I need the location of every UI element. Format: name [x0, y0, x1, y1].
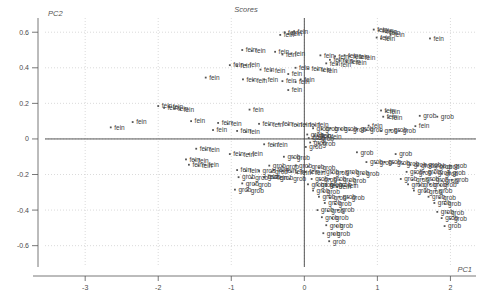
data-point-marker [336, 225, 338, 227]
data-point-marker [168, 106, 170, 108]
data-point-marker [356, 151, 358, 153]
data-point-marker [356, 128, 358, 130]
data-point-label: fein [252, 150, 263, 157]
data-point-marker [258, 123, 260, 125]
data-point-label: fein [419, 122, 430, 129]
data-point-marker [433, 172, 435, 174]
data-point-marker [414, 172, 416, 174]
data-point-marker [157, 105, 159, 107]
data-point-marker [317, 184, 319, 186]
data-point-label: fein [257, 77, 268, 84]
data-point-marker [179, 109, 181, 111]
data-point-marker [312, 190, 314, 192]
data-point-marker [393, 162, 395, 164]
data-point-marker [241, 49, 243, 51]
data-point-marker [409, 164, 411, 166]
data-point-marker [263, 78, 265, 80]
data-point-marker [249, 109, 251, 111]
tick-label-y: 0 [25, 135, 29, 142]
data-point-label: grob [352, 194, 365, 202]
data-point-marker [205, 77, 207, 79]
data-point-marker [338, 196, 340, 198]
data-point-marker [419, 184, 421, 186]
data-point-marker [311, 178, 313, 180]
data-point-marker [245, 170, 247, 172]
data-point-marker [425, 191, 427, 193]
data-point-marker [307, 68, 309, 70]
data-point-marker [325, 224, 327, 226]
data-point-marker [273, 144, 275, 146]
data-point-marker [279, 34, 281, 36]
data-point-marker [290, 53, 292, 55]
data-point-marker [278, 123, 280, 125]
data-point-marker [248, 153, 250, 155]
data-point-marker [241, 183, 243, 185]
data-point-marker [245, 64, 247, 66]
data-point-label: grob [309, 143, 322, 151]
data-point-marker [317, 69, 319, 71]
data-point-marker [337, 209, 339, 211]
data-point-marker [287, 73, 289, 75]
data-point-label: fein [385, 35, 396, 42]
data-point-marker [382, 116, 384, 118]
data-point-label: fein [275, 67, 286, 74]
data-point-label: grob [399, 150, 412, 158]
data-point-label: fein [392, 114, 403, 121]
data-point-label: grob [353, 177, 366, 185]
data-point-label: grob [280, 174, 293, 182]
data-point-marker [444, 203, 446, 205]
data-point-label: grob [299, 162, 312, 170]
data-point-label: fein [394, 31, 405, 38]
data-point-marker [419, 115, 421, 117]
data-point-marker [289, 178, 291, 180]
data-point-marker [290, 171, 292, 173]
data-point-marker [188, 164, 190, 166]
data-point-label: fein [249, 61, 260, 68]
data-point-marker [305, 171, 307, 173]
data-point-marker [378, 30, 380, 32]
data-point-marker [322, 191, 324, 193]
data-point-label: fein [255, 47, 266, 54]
data-point-marker [333, 233, 335, 235]
y-axis-label: PC2 [48, 9, 63, 18]
data-point-marker [329, 197, 331, 199]
data-point-marker [274, 51, 276, 53]
data-point-label: fein [246, 76, 257, 83]
data-point-marker [441, 217, 443, 219]
data-point-marker [320, 54, 322, 56]
data-point-marker [451, 179, 453, 181]
data-point-marker [252, 79, 254, 81]
tick-label-y: -0.6 [17, 242, 29, 249]
data-point-marker [331, 172, 333, 174]
data-point-label: grob [366, 170, 379, 178]
data-point-label: grob [297, 154, 310, 162]
data-point-marker [429, 165, 431, 167]
tick-label-y: 0.4 [19, 64, 29, 71]
tick-label-x: -3 [82, 284, 88, 291]
data-point-marker [242, 78, 244, 80]
data-point-marker [380, 130, 382, 132]
data-point-marker [382, 30, 384, 32]
data-point-marker [312, 127, 314, 129]
data-point-marker [283, 156, 285, 158]
data-point-marker [287, 33, 289, 35]
data-point-marker [307, 166, 309, 168]
data-point-label: grob [441, 113, 454, 121]
data-point-marker [204, 164, 206, 166]
data-point-marker [325, 183, 327, 185]
data-point-marker [268, 124, 270, 126]
data-point-marker [268, 165, 270, 167]
data-point-marker [423, 171, 425, 173]
data-point-label: grob [322, 140, 335, 148]
data-point-marker [295, 81, 297, 83]
data-point-label: grob [403, 127, 416, 135]
data-point-marker [429, 38, 431, 40]
data-point-marker [435, 166, 437, 168]
chart-title: Scores [234, 5, 258, 14]
data-point-label: fein [263, 120, 274, 127]
data-point-marker [236, 169, 238, 171]
data-point-marker [296, 172, 298, 174]
data-point-label: fein [433, 35, 444, 42]
data-point-marker [282, 80, 284, 82]
data-point-marker [380, 110, 382, 112]
